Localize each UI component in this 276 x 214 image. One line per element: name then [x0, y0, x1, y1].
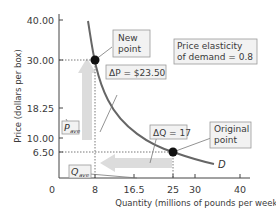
svg-text:ΔP = $23.50: ΔP = $23.50 [109, 68, 166, 78]
x-tick-16-5: 16.5 [123, 184, 144, 195]
curve-label-d: D [218, 159, 226, 170]
new-point-marker [91, 56, 100, 65]
y-tick-6: 6.50 [33, 147, 54, 158]
svg-text:Original: Original [214, 124, 249, 134]
q-ave-label: Q ave [69, 165, 91, 178]
svg-text:New: New [118, 33, 138, 43]
original-point-marker [169, 148, 178, 157]
y-axis-title: Price (dollars per box) [13, 49, 23, 142]
svg-text:point: point [118, 44, 141, 54]
elasticity-chart: 40.00 30.00 18.25 10.00 6.50 0 8 16.5 25… [0, 0, 276, 214]
x-axis-title: Quantity (millions of pounds per week) [115, 198, 276, 208]
quantity-change-arrow [100, 154, 172, 172]
svg-text:of demand = 0.8: of demand = 0.8 [177, 52, 253, 62]
new-point-label: New point [113, 30, 150, 57]
x-tick-40: 40 [234, 184, 246, 195]
original-point-label: Original point [210, 122, 251, 148]
price-change-arrow [78, 58, 96, 140]
p-ave-label: P ave [62, 121, 81, 134]
x-tick-30: 30 [189, 184, 201, 195]
x-tick-25: 25 [167, 184, 179, 195]
svg-text:ΔQ = 17: ΔQ = 17 [153, 128, 191, 138]
y-tick-30: 30.00 [27, 55, 54, 66]
y-tick-10: 10.00 [27, 133, 54, 144]
svg-text:Price elasticity: Price elasticity [177, 41, 243, 51]
svg-text:ave: ave [70, 128, 81, 134]
delta-p-label: ΔP = $23.50 [106, 65, 166, 79]
x-tick-0: 0 [49, 184, 55, 195]
delta-q-label: ΔQ = 17 [150, 125, 191, 139]
x-tick-8: 8 [92, 184, 98, 195]
elasticity-label: Price elasticity of demand = 0.8 [174, 39, 257, 64]
y-tick-40: 40.00 [27, 15, 54, 26]
svg-text:Q: Q [71, 166, 79, 177]
svg-text:point: point [214, 135, 237, 145]
y-tick-18: 18.25 [27, 103, 54, 114]
svg-text:ave: ave [79, 172, 90, 178]
